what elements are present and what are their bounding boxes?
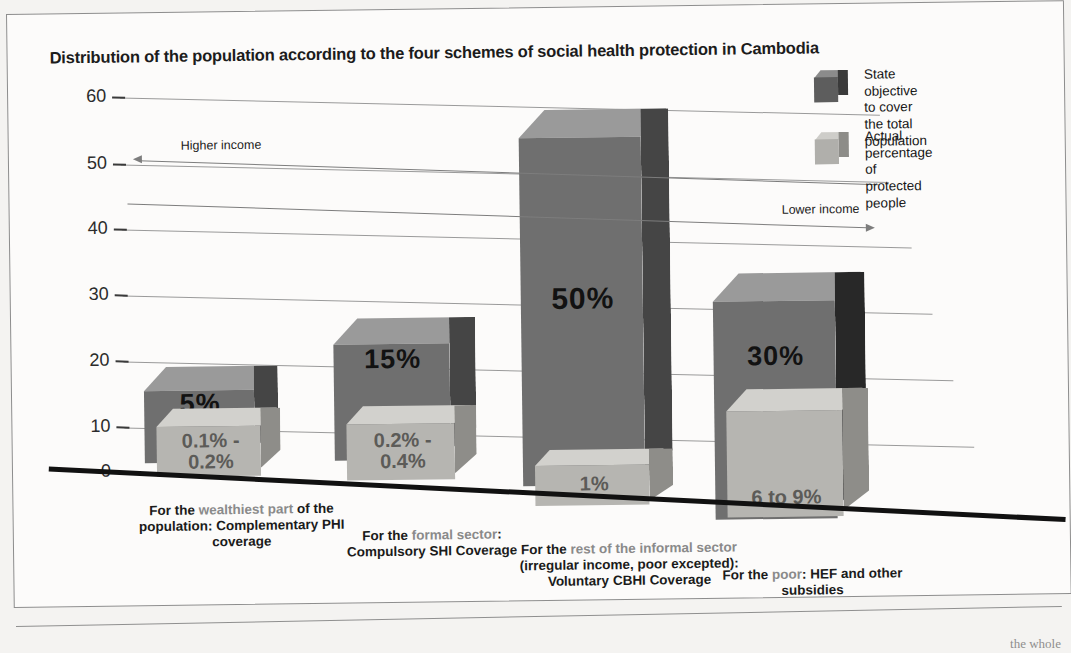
y-tick-label-30: 30 <box>63 284 109 306</box>
category-label-1-pre: For the <box>149 503 199 519</box>
y-tick-label-20: 20 <box>63 350 109 372</box>
lower-income-arrow-head <box>866 224 875 232</box>
y-tick-label-10: 10 <box>64 416 110 438</box>
legend-item-state-objective[interactable]: State objective to cover the total popul… <box>814 68 815 114</box>
legend-item-actual-percentage[interactable]: Actual percentage of protected people <box>815 130 816 176</box>
bar-inner-4[interactable] <box>726 410 870 534</box>
category-label-1: For the wealthiest part of the populatio… <box>135 501 348 552</box>
bar-value-outer-2: 15% <box>333 343 451 376</box>
gridline-40 <box>122 230 912 249</box>
y-tick-dash-10 <box>116 426 129 428</box>
y-tick-label-60: 60 <box>60 86 106 108</box>
higher-income-arrow-line <box>139 160 879 185</box>
lower-income-label: Lower income <box>782 202 860 217</box>
bar-inner-1-top <box>156 407 277 427</box>
bar-outer-3[interactable] <box>519 136 674 498</box>
category-label-2-pre: For the <box>362 528 412 544</box>
legend-swatch-dark-icon <box>814 70 848 102</box>
category-label-3-pre: For the <box>521 542 571 558</box>
chart-card: Distribution of the population according… <box>6 0 1071 608</box>
category-label-3-post: (irregular income, poor excepted): Volun… <box>520 555 739 588</box>
bar-inner-3-top <box>535 448 664 466</box>
chart-legend: State objective to cover the total popul… <box>814 68 815 176</box>
bar-inner-3-side <box>649 448 674 500</box>
page-stray-text: the whole <box>1010 636 1061 652</box>
bar-inner-2-top <box>346 405 471 425</box>
y-tick-dash-20 <box>116 360 129 362</box>
category-label-4: For the poor: HEF and other subsidies <box>714 565 910 599</box>
category-label-3-highlight: rest of the informal sector <box>570 539 737 556</box>
plot-area: Distribution of the population according… <box>7 1 1071 607</box>
scanned-page: Distribution of the population according… <box>0 0 1071 653</box>
bar-value-inner-2: 0.2% - 0.4% <box>348 429 457 473</box>
category-label-3: For the rest of the informal sector (irr… <box>510 539 749 590</box>
bar-inner-2-side <box>454 405 477 473</box>
bar-value-inner-1: 0.1% - 0.2% <box>158 430 263 474</box>
chart-title: Distribution of the population according… <box>49 38 818 67</box>
category-label-2: For the formal sector: Compulsory SHI Co… <box>332 526 532 560</box>
higher-income-arrow-head <box>133 155 142 163</box>
y-tick-label-50: 50 <box>61 153 107 175</box>
y-tick-dash-50 <box>113 163 126 165</box>
higher-income-label: Higher income <box>181 138 262 153</box>
lower-income-arrow-line <box>127 203 867 228</box>
page-edge-line <box>16 606 1062 627</box>
category-label-1-highlight: wealthiest part <box>199 501 294 517</box>
bar-value-outer-4: 30% <box>713 340 837 373</box>
category-label-4-pre: For the <box>722 567 772 583</box>
legend-swatch-light-icon <box>815 132 849 164</box>
legend-label-actual-percentage: Actual percentage of protected people <box>865 128 934 213</box>
bar-inner-4-side <box>842 388 870 510</box>
y-tick-dash-30 <box>115 294 128 296</box>
category-label-4-highlight: poor <box>772 567 802 582</box>
bar-value-outer-3: 50% <box>521 281 645 317</box>
bar-outer-3-side <box>640 108 673 468</box>
bar-inner-1-side <box>260 407 281 467</box>
gridline-60 <box>120 98 880 116</box>
y-tick-dash-60 <box>112 96 125 98</box>
y-tick-label-40: 40 <box>62 218 108 240</box>
category-label-2-highlight: formal sector <box>411 527 497 543</box>
y-tick-dash-40 <box>114 228 127 230</box>
